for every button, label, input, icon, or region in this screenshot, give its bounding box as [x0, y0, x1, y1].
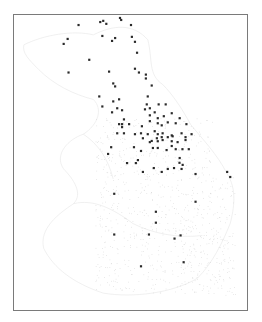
- site-marker[interactable]: [171, 140, 173, 142]
- site-marker[interactable]: [137, 159, 139, 161]
- site-marker[interactable]: [149, 107, 151, 109]
- site-marker[interactable]: [156, 137, 158, 139]
- site-marker[interactable]: [149, 120, 151, 122]
- site-marker[interactable]: [144, 108, 146, 110]
- site-marker[interactable]: [77, 24, 79, 26]
- site-marker[interactable]: [162, 139, 164, 141]
- site-marker[interactable]: [63, 43, 65, 45]
- site-marker[interactable]: [67, 38, 69, 40]
- site-marker[interactable]: [173, 167, 175, 169]
- site-marker[interactable]: [99, 21, 101, 23]
- site-marker[interactable]: [147, 95, 149, 97]
- site-marker[interactable]: [161, 171, 163, 173]
- site-marker[interactable]: [180, 132, 182, 134]
- site-marker[interactable]: [140, 150, 142, 152]
- site-marker[interactable]: [229, 176, 231, 178]
- map-canvas[interactable]: [14, 15, 247, 310]
- site-marker[interactable]: [175, 122, 177, 124]
- site-marker[interactable]: [113, 233, 115, 235]
- site-marker[interactable]: [165, 103, 167, 105]
- site-marker[interactable]: [113, 193, 115, 195]
- site-marker[interactable]: [121, 126, 123, 128]
- site-marker[interactable]: [112, 100, 114, 102]
- site-marker[interactable]: [108, 71, 110, 73]
- site-marker[interactable]: [142, 171, 144, 173]
- site-marker[interactable]: [152, 147, 154, 149]
- site-marker[interactable]: [157, 122, 159, 124]
- site-marker[interactable]: [126, 162, 128, 164]
- site-marker[interactable]: [121, 109, 123, 111]
- site-marker[interactable]: [118, 98, 120, 100]
- site-marker[interactable]: [107, 153, 109, 155]
- site-marker[interactable]: [194, 201, 196, 203]
- site-marker[interactable]: [151, 84, 153, 86]
- site-marker[interactable]: [101, 35, 103, 37]
- site-marker[interactable]: [88, 59, 90, 61]
- site-marker[interactable]: [141, 125, 143, 127]
- site-marker[interactable]: [120, 19, 122, 21]
- site-marker[interactable]: [134, 68, 136, 70]
- site-marker[interactable]: [112, 82, 114, 84]
- site-marker[interactable]: [148, 233, 150, 235]
- site-marker[interactable]: [105, 23, 107, 25]
- site-marker[interactable]: [133, 146, 135, 148]
- site-marker[interactable]: [118, 123, 120, 125]
- site-marker[interactable]: [145, 74, 147, 76]
- site-marker[interactable]: [171, 112, 173, 114]
- site-marker[interactable]: [157, 117, 159, 119]
- site-marker[interactable]: [123, 118, 125, 120]
- site-marker[interactable]: [167, 168, 169, 170]
- site-marker[interactable]: [134, 41, 136, 43]
- site-marker[interactable]: [179, 117, 181, 119]
- site-marker[interactable]: [153, 167, 155, 169]
- site-marker[interactable]: [134, 133, 136, 135]
- site-marker[interactable]: [130, 24, 132, 26]
- site-marker[interactable]: [171, 145, 173, 147]
- site-marker[interactable]: [116, 107, 118, 109]
- site-marker[interactable]: [67, 71, 69, 73]
- site-marker[interactable]: [184, 139, 186, 141]
- site-marker[interactable]: [181, 148, 183, 150]
- site-marker[interactable]: [167, 121, 169, 123]
- site-marker[interactable]: [226, 171, 228, 173]
- site-marker[interactable]: [179, 234, 181, 236]
- site-marker[interactable]: [119, 17, 121, 19]
- site-marker[interactable]: [183, 261, 185, 263]
- site-marker[interactable]: [121, 123, 123, 125]
- site-marker[interactable]: [136, 52, 138, 54]
- site-marker[interactable]: [146, 103, 148, 105]
- site-marker[interactable]: [138, 71, 140, 73]
- site-marker[interactable]: [111, 40, 113, 42]
- site-marker[interactable]: [182, 164, 184, 166]
- site-marker[interactable]: [158, 103, 160, 105]
- site-marker[interactable]: [165, 149, 167, 151]
- site-marker[interactable]: [114, 37, 116, 39]
- site-marker[interactable]: [173, 237, 175, 239]
- site-marker[interactable]: [180, 168, 182, 170]
- site-marker[interactable]: [102, 20, 104, 22]
- site-marker[interactable]: [157, 133, 159, 135]
- site-marker[interactable]: [135, 162, 137, 164]
- site-marker[interactable]: [194, 173, 196, 175]
- site-marker[interactable]: [161, 124, 163, 126]
- site-marker[interactable]: [162, 132, 164, 134]
- site-marker[interactable]: [184, 136, 186, 138]
- site-marker[interactable]: [188, 148, 190, 150]
- site-marker[interactable]: [185, 123, 187, 125]
- site-marker[interactable]: [179, 157, 181, 159]
- site-marker[interactable]: [172, 135, 174, 137]
- site-marker[interactable]: [110, 146, 112, 148]
- site-marker[interactable]: [116, 132, 118, 134]
- site-marker[interactable]: [128, 123, 130, 125]
- site-marker[interactable]: [140, 132, 142, 134]
- site-marker[interactable]: [177, 141, 179, 143]
- site-marker[interactable]: [142, 137, 144, 139]
- site-marker[interactable]: [111, 111, 113, 113]
- site-marker[interactable]: [154, 130, 156, 132]
- site-marker[interactable]: [154, 111, 156, 113]
- site-marker[interactable]: [114, 85, 116, 87]
- site-marker[interactable]: [101, 105, 103, 107]
- site-marker[interactable]: [161, 136, 163, 138]
- site-marker[interactable]: [149, 141, 151, 143]
- site-marker[interactable]: [155, 222, 157, 224]
